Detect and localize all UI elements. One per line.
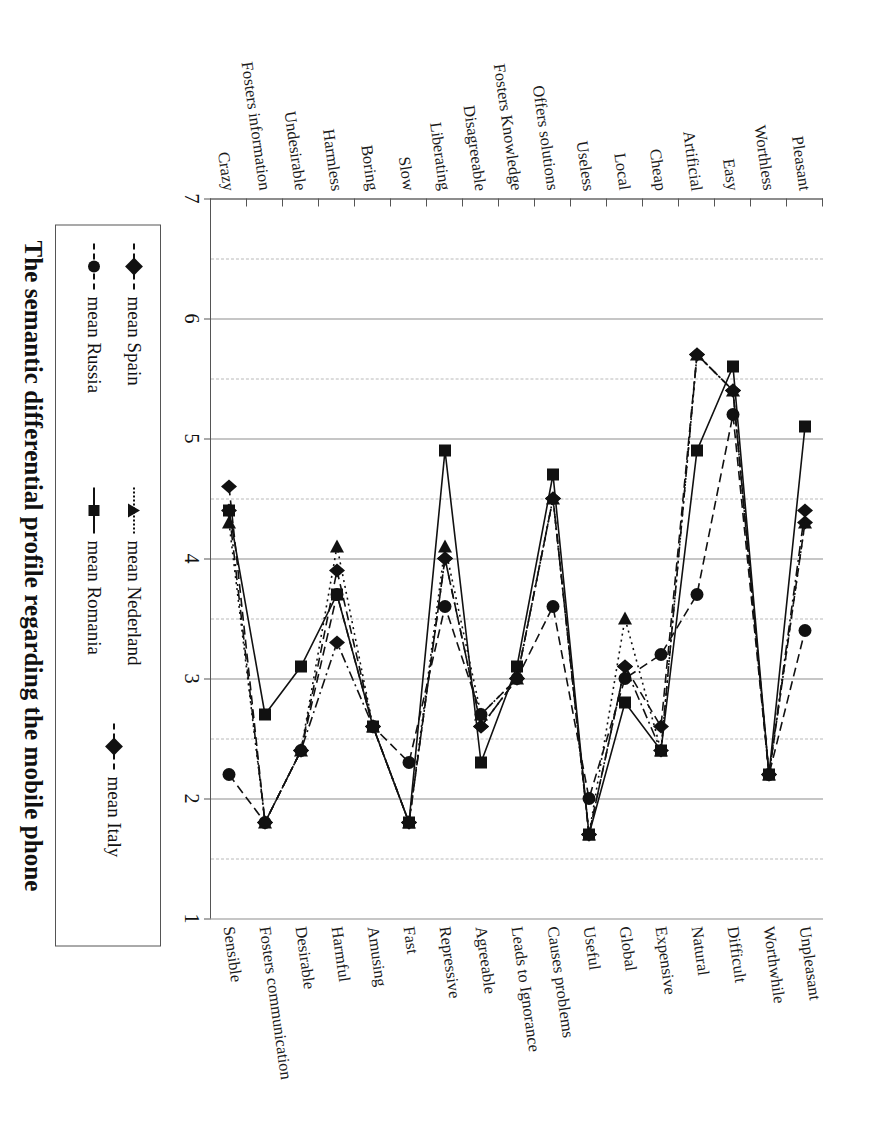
square-marker-glyph bbox=[89, 505, 100, 516]
triangle-marker bbox=[330, 539, 344, 552]
right-pole-label: Natural bbox=[689, 925, 713, 976]
diamond-marker bbox=[329, 635, 345, 649]
square-marker bbox=[259, 708, 271, 720]
square-marker bbox=[89, 505, 100, 516]
series-path bbox=[229, 354, 805, 834]
legend-label: mean Nederland bbox=[125, 540, 144, 665]
diamond-marker bbox=[473, 719, 489, 733]
series-path bbox=[229, 414, 805, 822]
right-pole-label: Expensive bbox=[653, 925, 679, 995]
value-tick-label: 5 bbox=[182, 433, 202, 443]
square-marker bbox=[295, 660, 307, 672]
legend-label: mean Russia bbox=[85, 296, 104, 393]
value-tick bbox=[204, 558, 211, 559]
left-pole-label: Disagreeable bbox=[461, 104, 490, 192]
legend-marker bbox=[87, 243, 103, 289]
right-pole-label: Leads to Ignorance bbox=[509, 925, 543, 1053]
square-marker bbox=[439, 444, 451, 456]
series-path bbox=[229, 354, 805, 834]
left-pole-label: Local bbox=[611, 152, 633, 192]
legend-marker bbox=[127, 487, 143, 533]
legend-label: mean Spain bbox=[125, 296, 144, 385]
left-pole-label: Easy bbox=[720, 157, 741, 191]
series-mean-spain bbox=[221, 347, 813, 841]
legend-item[interactable]: mean Italy bbox=[105, 723, 124, 857]
left-pole-label: Worthless bbox=[751, 124, 777, 191]
square-marker bbox=[475, 756, 487, 768]
triangle-marker bbox=[129, 503, 141, 517]
diamond-marker bbox=[797, 503, 813, 517]
right-pole-label: Harmful bbox=[329, 925, 354, 983]
circle-marker-glyph bbox=[89, 260, 101, 272]
diamond-marker bbox=[221, 479, 237, 493]
right-pole-label: Causes problems bbox=[545, 925, 577, 1039]
value-tick bbox=[204, 798, 211, 799]
series-mean-italy bbox=[221, 347, 813, 841]
legend-marker bbox=[127, 243, 143, 289]
legend-item[interactable]: mean Nederland bbox=[125, 487, 144, 665]
circle-marker bbox=[89, 260, 101, 272]
series-mean-nederland bbox=[222, 347, 812, 840]
series-mean-romania bbox=[223, 360, 811, 840]
right-pole-label: Desirable bbox=[293, 925, 319, 990]
left-pole-label: Fosters Knowledge bbox=[491, 62, 526, 191]
value-tick-label: 3 bbox=[182, 673, 202, 683]
square-marker bbox=[619, 696, 631, 708]
right-pole-label: Fosters communication bbox=[257, 925, 295, 1080]
right-pole-label: Worthwhile bbox=[761, 925, 789, 1004]
value-tick bbox=[204, 918, 211, 919]
value-tick-label: 4 bbox=[182, 553, 202, 563]
diamond-marker-glyph bbox=[126, 257, 144, 275]
left-pole-label: Artificial bbox=[680, 129, 705, 191]
value-tick bbox=[204, 678, 211, 679]
right-pole-label: Global bbox=[617, 925, 640, 972]
legend-label: mean Italy bbox=[105, 776, 124, 857]
diamond-marker bbox=[129, 260, 141, 272]
value-tick-label: 2 bbox=[182, 793, 202, 803]
value-tick-label: 1 bbox=[182, 913, 202, 923]
circle-marker bbox=[547, 600, 560, 613]
semantic-differential-chart: 7654321 CrazyFosters informationUndesira… bbox=[27, 48, 847, 1083]
series-mean-russia bbox=[223, 408, 812, 829]
legend-item[interactable]: mean Spain bbox=[125, 243, 144, 385]
value-tick bbox=[204, 318, 211, 319]
legend-item[interactable]: mean Russia bbox=[85, 243, 104, 393]
legend-marker bbox=[107, 723, 123, 769]
left-pole-label: Cheap bbox=[647, 147, 670, 191]
value-tick bbox=[204, 438, 211, 439]
legend-item[interactable]: mean Romania bbox=[85, 487, 104, 655]
circle-marker bbox=[691, 588, 704, 601]
circle-marker bbox=[223, 768, 236, 781]
left-pole-label: Fosters information bbox=[239, 60, 274, 191]
square-marker bbox=[511, 660, 523, 672]
right-pole-label: Amusing bbox=[365, 925, 390, 987]
left-pole-label: Boring bbox=[358, 143, 381, 191]
series-path bbox=[229, 354, 805, 834]
circle-marker bbox=[439, 600, 452, 613]
triangle-marker bbox=[618, 611, 632, 624]
right-pole-label: Useful bbox=[581, 925, 604, 971]
right-pole-label: Agreeable bbox=[473, 925, 499, 995]
legend-label: mean Romania bbox=[85, 540, 104, 655]
circle-marker bbox=[655, 648, 668, 661]
value-tick-label: 6 bbox=[182, 313, 202, 323]
diamond-marker-glyph bbox=[106, 737, 124, 755]
square-marker bbox=[727, 360, 739, 372]
legend: mean Spainmean Russiamean Nederlandmean … bbox=[55, 224, 161, 946]
left-pole-label: Pleasant bbox=[789, 134, 813, 191]
series-path bbox=[229, 366, 805, 834]
right-pole-label: Sensible bbox=[221, 925, 246, 983]
right-pole-label: Difficult bbox=[725, 925, 750, 983]
diamond-marker bbox=[617, 659, 633, 673]
triangle-marker-glyph bbox=[129, 503, 141, 517]
square-marker bbox=[331, 588, 343, 600]
left-pole-label: Slow bbox=[396, 155, 418, 191]
legend-marker bbox=[87, 487, 103, 533]
figure-root: 7654321 CrazyFosters informationUndesira… bbox=[0, 0, 874, 1131]
square-marker bbox=[799, 420, 811, 432]
square-marker bbox=[547, 468, 559, 480]
right-pole-label: Repressive bbox=[437, 925, 464, 999]
left-pole-label: Harmless bbox=[320, 127, 346, 191]
left-pole-label: Crazy bbox=[215, 150, 237, 191]
value-tick-label: 7 bbox=[182, 193, 202, 203]
